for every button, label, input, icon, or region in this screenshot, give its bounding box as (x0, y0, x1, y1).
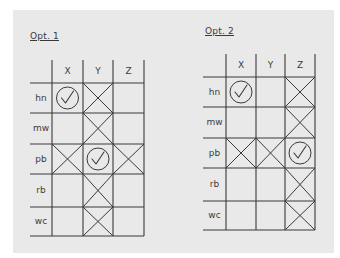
check-circle-icon (289, 142, 311, 164)
row-label-hn: hn (203, 77, 226, 107)
column-header-y: Y (256, 54, 285, 77)
row-label-wc: wc (203, 201, 226, 230)
row-label-pb: pb (30, 144, 52, 174)
column-header-y: Y (83, 60, 113, 83)
row-label-rb: rb (30, 174, 52, 207)
row-label-mw: mw (30, 113, 52, 144)
check-circle-icon (87, 148, 109, 170)
check-circle-icon (57, 87, 79, 109)
column-header-z: Z (113, 60, 144, 83)
column-header-x: X (52, 60, 83, 83)
column-header-z: Z (285, 54, 315, 77)
column-header-x: X (226, 54, 256, 77)
row-label-pb: pb (203, 138, 226, 168)
row-label-mw: mw (203, 107, 226, 138)
check-circle-icon (230, 81, 252, 103)
row-label-rb: rb (203, 168, 226, 201)
row-label-wc: wc (30, 207, 52, 236)
row-label-hn: hn (30, 83, 52, 113)
